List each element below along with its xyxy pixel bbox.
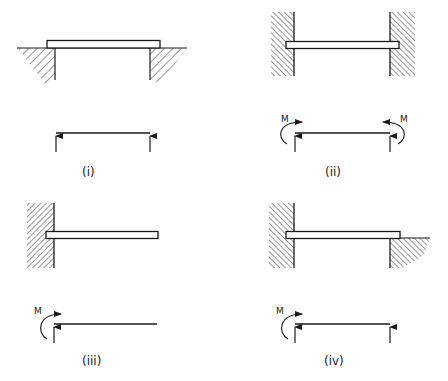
caption-i: (i) — [82, 165, 95, 179]
beam — [47, 41, 160, 49]
moment-arrow-icon — [282, 314, 302, 339]
ground-hatch-right — [150, 48, 187, 84]
caption-ii: (ii) — [325, 165, 341, 179]
physical-beam-iii — [27, 203, 158, 268]
physical-beam-ii — [271, 12, 415, 76]
panel-iii: M (iii) — [27, 203, 158, 368]
panel-i: (i) — [17, 41, 187, 180]
beam-support-diagram: (i) M M (ii) — [0, 0, 448, 381]
moment-label-right: M — [400, 114, 408, 124]
physical-beam-i — [17, 41, 187, 85]
free-body-diagram-iv: M — [276, 306, 390, 343]
free-body-diagram-i — [56, 133, 150, 152]
caption-iii: (iii) — [82, 354, 101, 368]
moment-label-left: M — [281, 114, 289, 124]
beam — [46, 232, 158, 239]
beam — [286, 42, 399, 49]
moment-label: M — [276, 306, 284, 316]
caption-iv: (iv) — [324, 354, 344, 368]
beam — [286, 232, 400, 239]
moment-label: M — [34, 306, 42, 316]
physical-beam-iv — [269, 203, 430, 268]
moment-arrow-icon — [41, 314, 61, 339]
free-body-diagram-ii: M M — [281, 114, 408, 152]
free-body-diagram-iii: M — [34, 306, 157, 343]
ground-hatch-left — [18, 48, 55, 84]
ground-hatch-right — [390, 238, 430, 268]
panel-ii: M M (ii) — [271, 12, 415, 179]
panel-iv: M (iv) — [269, 203, 430, 368]
